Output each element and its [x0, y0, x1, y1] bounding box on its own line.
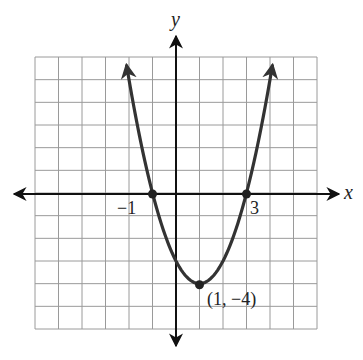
root-label-left: −1	[117, 198, 136, 218]
y-axis-label: y	[169, 8, 180, 31]
x-axis-label: x	[343, 181, 353, 203]
root-label-right: 3	[250, 198, 259, 218]
vertex-label: (1, −4)	[207, 289, 256, 310]
root-point-left	[148, 190, 157, 199]
vertex-point	[195, 280, 204, 289]
parabola-graph: y x −1 3 (1, −4)	[0, 0, 363, 360]
